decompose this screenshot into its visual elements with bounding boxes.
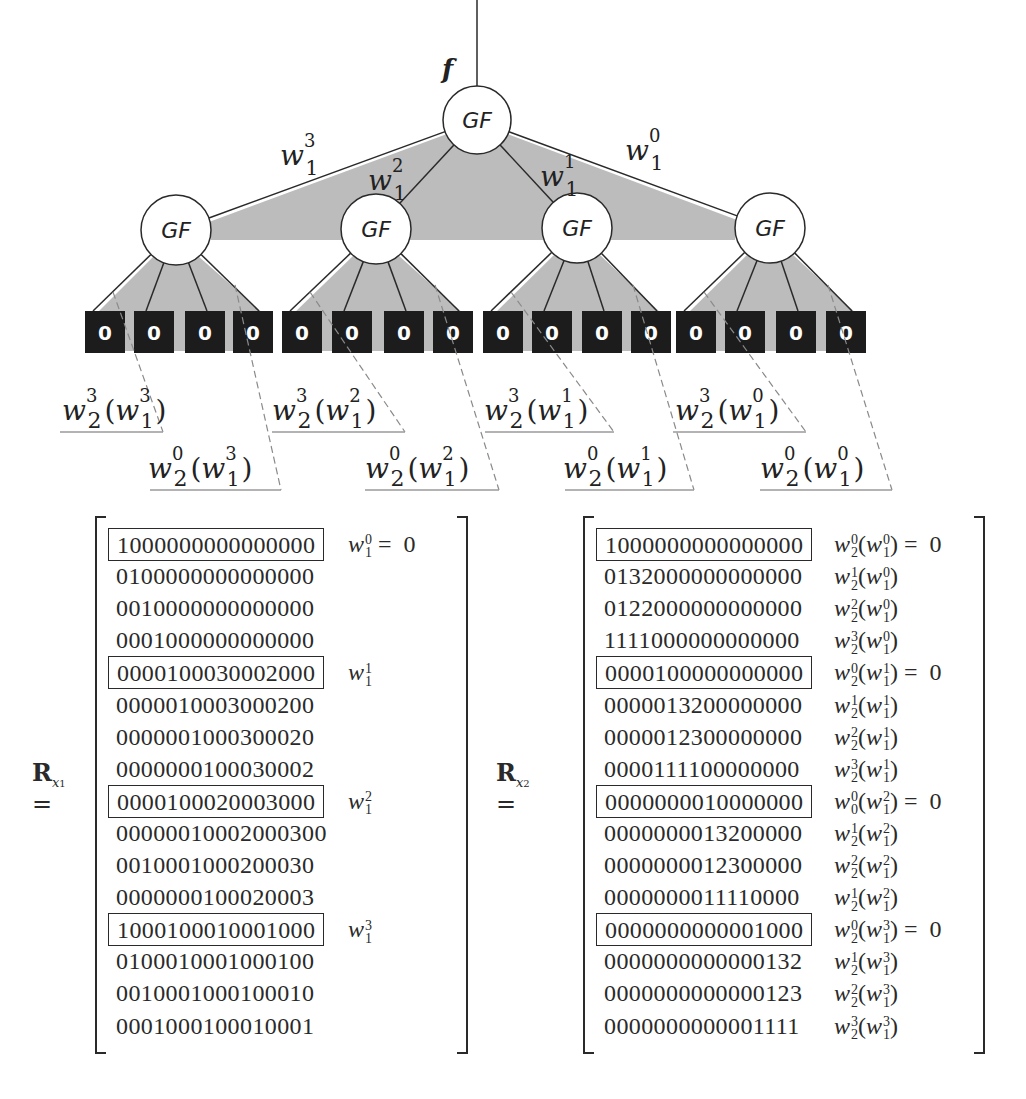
subband-label: w32(w11) (484, 385, 588, 433)
row-bits: 00000010002000300 (108, 817, 335, 849)
matrix-row: 0010001000200030 (108, 849, 322, 881)
svg-text:0: 0 (345, 321, 359, 345)
row-annotation: w22(w11) (834, 721, 898, 753)
row-bits: 0000000100020003 (108, 881, 322, 913)
row-annotation: w21 (348, 785, 372, 817)
subband-label: w02(w01) (760, 443, 864, 491)
row-bits: 0001000100010001 (108, 1010, 322, 1042)
matrix-row: 0000000100020003 (108, 881, 322, 913)
matrix-bracket-right (457, 516, 468, 1054)
row-annotation: w11 (348, 656, 372, 688)
gf-node-level1-2: GF (542, 193, 612, 263)
row-bits: 0000012300000000 (596, 721, 810, 753)
subband-label: w32(w31) (62, 385, 166, 433)
boxed-lowpass-row: 0000100000000000 (596, 656, 812, 689)
row-annotation: w02(w31) = 0 (834, 913, 942, 945)
svg-text:GF: GF (361, 217, 391, 242)
subband-label: w02(w21) (365, 443, 469, 491)
matrix-row: 0000100000000000w02(w11) = 0 (596, 656, 812, 688)
subband-label: w32(w01) (675, 385, 779, 433)
leaf-coefficient-11: 0 (631, 311, 671, 353)
edge-label-w1-0: w01 (625, 125, 663, 175)
leaf-coefficient-13: 0 (725, 311, 765, 353)
svg-text:0: 0 (295, 321, 309, 345)
row-annotation: w32(w31) (834, 1010, 898, 1042)
svg-text:0: 0 (198, 321, 212, 345)
matrix-row: 1000100010001000w31 (108, 913, 324, 945)
matrix-row: 0000000100030002 (108, 753, 322, 785)
row-bits: 0000000000001111 (596, 1010, 808, 1042)
matrix-row: 0000000012300000w22(w21) (596, 849, 810, 881)
subband-label: w32(w21) (272, 385, 376, 433)
row-annotation: w02(w11) = 0 (834, 656, 942, 688)
matrix-row: 0000000010000000w00(w21) = 0 (596, 785, 812, 817)
subband-label: w02(w11) (563, 443, 667, 491)
matrix-row: 0000000011110000w12(w21) (596, 881, 808, 913)
row-annotation: w22(w21) (834, 849, 898, 881)
matrix-row: 0001000100010001 (108, 1010, 322, 1042)
leaf-coefficient-3: 0 (233, 311, 273, 353)
matrix-row: 0000000013200000w12(w21) (596, 817, 810, 849)
row-bits: 0000000000000132 (596, 945, 810, 977)
input-label-f: f (440, 54, 457, 84)
matrix-row: 1000000000000000w02(w01) = 0 (596, 528, 812, 560)
row-bits: 0122000000000000 (596, 592, 810, 624)
row-bits: 0000001000300020 (108, 721, 322, 753)
row-bits: 0000000100030002 (108, 753, 322, 785)
subband-label: w02(w31) (148, 443, 252, 491)
row-annotation: w00(w21) = 0 (834, 785, 942, 817)
svg-text:GF: GF (755, 216, 785, 241)
row-annotation: w12(w31) (834, 945, 898, 977)
leaf-coefficient-12: 0 (676, 311, 716, 353)
row-bits: 0010000000000000 (108, 592, 322, 624)
boxed-lowpass-row: 1000000000000000 (596, 528, 812, 561)
matrix-row: 0010001000100010 (108, 977, 322, 1009)
row-annotation: w32(w11) (834, 753, 898, 785)
svg-text:GF: GF (462, 108, 492, 133)
row-bits: 0000010003000200 (108, 689, 322, 721)
gf-node-root: GF (443, 86, 511, 154)
boxed-lowpass-row: 0000100030002000 (108, 656, 324, 689)
boxed-lowpass-row: 0000100020003000 (108, 785, 324, 818)
boxed-lowpass-row: 1000100010001000 (108, 913, 324, 946)
row-annotation: w22(w31) (834, 977, 898, 1009)
svg-text:GF: GF (161, 218, 191, 243)
matrix-label-rx1: Rx1 = (32, 758, 66, 818)
matrix-row: 0000100030002000w11 (108, 656, 324, 688)
svg-text:0: 0 (397, 321, 411, 345)
row-bits: 0132000000000000 (596, 560, 810, 592)
row-bits: 0100000000000000 (108, 560, 322, 592)
matrix-row: 0000000000001111w32(w31) (596, 1010, 808, 1042)
matrix-row: 0010000000000000 (108, 592, 322, 624)
svg-text:0: 0 (789, 321, 803, 345)
gf-node-level1-0: GF (141, 195, 211, 265)
row-annotation: w32(w01) (834, 624, 898, 656)
row-annotation: w31 (348, 913, 372, 945)
row-bits: 0100010001000100 (108, 945, 322, 977)
svg-text:0: 0 (496, 321, 510, 345)
matrix-row: 0000001000300020 (108, 721, 322, 753)
gf-tree-diagram: fGFGFGFGFGF0000000000000000w31w21w11w01w… (0, 0, 1026, 500)
leaf-coefficient-6: 0 (384, 311, 424, 353)
row-bits: 0010001000100010 (108, 977, 322, 1009)
svg-text:0: 0 (98, 321, 112, 345)
matrix-row: 0000010003000200 (108, 689, 322, 721)
row-annotation: w01 = 0 (348, 528, 416, 560)
matrix-row: 0132000000000000w12(w01) (596, 560, 810, 592)
matrix-row: 0000100020003000w21 (108, 785, 324, 817)
leaf-coefficient-10: 0 (582, 311, 622, 353)
matrix-row: 0000000000000123w22(w31) (596, 977, 810, 1009)
matrix-bracket-left (95, 516, 106, 1054)
row-annotation: w12(w21) (834, 817, 898, 849)
matrix-row: 0000000000000132w12(w31) (596, 945, 810, 977)
matrix-row: 0001000000000000 (108, 624, 322, 656)
row-annotation: w12(w01) (834, 560, 898, 592)
svg-text:0: 0 (147, 321, 161, 345)
row-bits: 0000000013200000 (596, 817, 810, 849)
gf-node-level1-3: GF (735, 193, 805, 263)
row-bits: 0010001000200030 (108, 849, 322, 881)
row-bits: 1111000000000000 (596, 624, 808, 656)
matrix-row: 1000000000000000w01 = 0 (108, 528, 324, 560)
matrix-row: 00000010002000300 (108, 817, 335, 849)
boxed-lowpass-row: 1000000000000000 (108, 528, 324, 561)
